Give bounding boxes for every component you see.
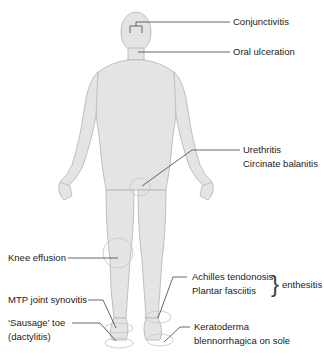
right-leg xyxy=(106,190,134,318)
torso xyxy=(94,60,177,190)
left-arm xyxy=(174,72,212,188)
label-urethritis: Urethritis xyxy=(243,143,281,156)
label-enthesitis: enthesitis xyxy=(282,278,322,291)
left-foot xyxy=(144,318,162,340)
right-arm xyxy=(60,72,98,188)
label-sausage-toe: ‘Sausage’ toe xyxy=(8,316,65,329)
label-mtp-joint-synovitis: MTP joint synovitis xyxy=(8,293,87,306)
label-blennorrhagica: blennorrhagica on sole xyxy=(194,334,290,347)
label-dactylitis: (dactylitis) xyxy=(8,330,51,343)
left-leg xyxy=(138,190,166,318)
label-conjunctivitis: Conjunctivitis xyxy=(233,15,289,28)
label-achilles-tendonosis: Achilles tendonosis xyxy=(192,270,273,283)
label-oral-ulceration: Oral ulceration xyxy=(233,45,295,58)
label-knee-effusion: Knee effusion xyxy=(8,251,66,264)
enthesitis-brace: } xyxy=(271,270,279,298)
head xyxy=(121,12,151,52)
label-circinate-balanitis: Circinate balanitis xyxy=(243,157,318,170)
label-plantar-fasciitis: Plantar fasciitis xyxy=(192,284,256,297)
label-keratoderma: Keratoderma xyxy=(194,320,249,333)
